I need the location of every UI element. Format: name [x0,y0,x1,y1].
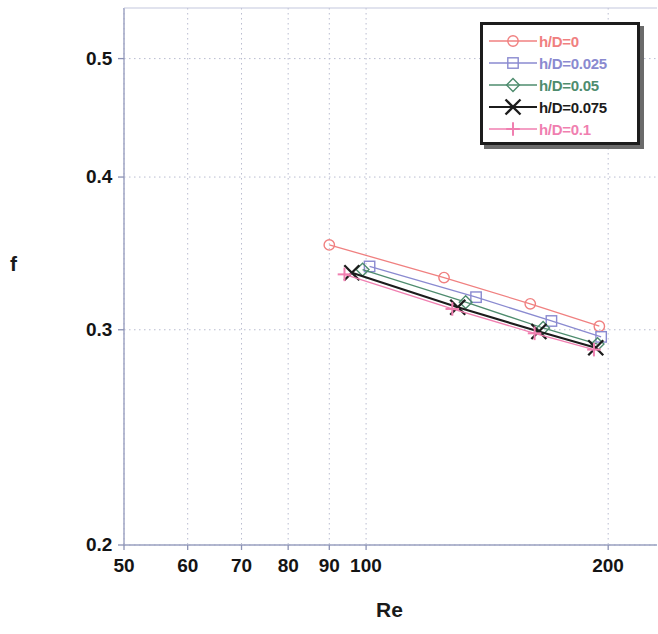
chart-figure: f Re h/D=0h/D=0.025h/D=0.05h/D=0.075h/D=… [0,0,658,634]
legend-marker-x-icon [487,97,539,117]
legend-entry: h/D=0.025 [483,52,637,74]
x-tick-label: 60 [177,555,198,577]
x-tick-label: 50 [114,555,135,577]
legend-label: h/D=0.1 [539,121,591,138]
legend-marker-diamond-icon [487,75,539,95]
legend-entry: h/D=0.1 [483,118,637,140]
legend-label: h/D=0.075 [539,99,607,116]
chart-legend: h/D=0h/D=0.025h/D=0.05h/D=0.075h/D=0.1 [480,22,640,145]
legend-label: h/D=0 [539,33,579,50]
legend-entry: h/D=0.05 [483,74,637,96]
x-axis-title: Re [376,598,403,622]
chart-series-2 [356,263,604,350]
x-tick-label: 100 [350,555,382,577]
y-tick-label: 0.2 [86,534,112,556]
legend-marker-plus-icon [487,119,539,139]
legend-label: h/D=0.025 [539,55,607,72]
legend-entry: h/D=0.075 [483,96,637,118]
x-tick-label: 200 [592,555,624,577]
legend-marker-square-icon [487,53,539,73]
x-tick-label: 90 [319,555,340,577]
legend-entry: h/D=0 [483,30,637,52]
x-tick-label: 80 [278,555,299,577]
y-tick-label: 0.3 [86,319,112,341]
data-point-marker [506,122,520,136]
y-tick-label: 0.4 [86,166,112,188]
legend-label: h/D=0.05 [539,77,599,94]
legend-marker-circle-icon [487,31,539,51]
y-axis-title: f [10,252,17,276]
x-tick-label: 70 [231,555,252,577]
y-tick-label: 0.5 [86,48,112,70]
